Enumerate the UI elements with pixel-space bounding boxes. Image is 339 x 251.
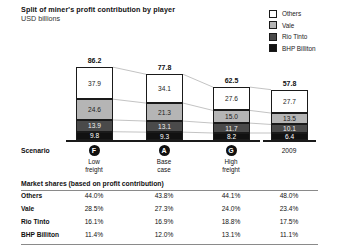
scenario-line1: High [208, 158, 254, 166]
bar-segment-rio-tinto: 13.1 [146, 121, 183, 132]
bar-segment-rio-tinto: 11.7 [213, 123, 250, 133]
bar-total-base-case: 77.8 [146, 64, 183, 71]
axis-baseline-2009 [263, 140, 316, 142]
bar-segment-rio-tinto: 13.9 [76, 120, 113, 132]
legend-label-others: Others [282, 10, 301, 17]
scenario-line1: Low [71, 158, 117, 166]
cell-value: 48.0% [266, 192, 312, 199]
row-label-rio-tinto: Rio Tinto [21, 218, 49, 225]
cell-value: 24.0% [208, 205, 254, 212]
table-row: Others 44.0% 43.8% 44.1% 48.0% [0, 192, 339, 204]
scenario-column-low-freight: F Low freight [71, 145, 117, 173]
bar-segment-vale: 13.5 [271, 113, 308, 124]
scenario-row-label: Scenario [21, 147, 50, 154]
row-label-vale: Vale [21, 205, 34, 212]
cell-value: 12.0% [141, 231, 187, 238]
bar-segment-vale: 21.3 [146, 103, 183, 121]
row-label-bhp-billiton: BHP Billiton [21, 231, 59, 238]
scenario-line2: freight [208, 166, 254, 174]
bar-low-freight: 86.2 37.9 24.6 13.9 9.8 [76, 28, 113, 140]
cell-value: 13.1% [208, 231, 254, 238]
scenario-column-high-freight: G High freight [208, 145, 254, 173]
table-row: Vale 28.5% 27.3% 24.0% 23.4% [0, 205, 339, 217]
bar-segment-others: 37.9 [76, 67, 113, 99]
bar-segment-bhp-billiton: 9.8 [76, 132, 113, 140]
cell-value: 18.8% [208, 218, 254, 225]
cell-value: 16.9% [141, 218, 187, 225]
bar-total-2009: 57.8 [271, 80, 308, 87]
table-rule-bottom [21, 244, 318, 245]
bar-segment-others: 34.1 [146, 74, 183, 103]
page-title: Split of miner's profit contribution by … [21, 5, 175, 14]
bar-segment-bhp-billiton: 9.3 [146, 132, 183, 140]
bar-total-low-freight: 86.2 [76, 57, 113, 64]
chart-page: Split of miner's profit contribution by … [0, 0, 339, 251]
cell-value: 23.4% [266, 205, 312, 212]
page-subtitle: USD billions [21, 14, 60, 23]
scenario-line2: case [141, 166, 187, 174]
legend-item-others: Others [269, 8, 331, 20]
axis-baseline-scenarios [66, 140, 260, 142]
table-row: Rio Tinto 16.1% 16.9% 18.8% 17.5% [0, 218, 339, 230]
bar-segment-vale: 24.6 [76, 99, 113, 120]
bar-segment-vale: 15.0 [213, 110, 250, 123]
bar-segment-bhp-billiton: 8.2 [213, 133, 250, 140]
scenario-line1: Base [141, 158, 187, 166]
bar-segment-others: 27.7 [271, 90, 308, 113]
bar-segment-others: 27.6 [213, 87, 250, 110]
bar-segment-rio-tinto: 10.1 [271, 124, 308, 133]
row-label-others: Others [21, 192, 42, 199]
cell-value: 44.1% [208, 192, 254, 199]
cell-value: 28.5% [71, 205, 117, 212]
cell-value: 16.1% [71, 218, 117, 225]
cell-value: 27.3% [141, 205, 187, 212]
bar-segment-bhp-billiton: 6.4 [271, 133, 308, 140]
table-row: BHP Billiton 11.4% 12.0% 13.1% 11.1% [0, 231, 339, 243]
legend-swatch-others [269, 10, 277, 18]
table-rule-top [21, 190, 318, 191]
cell-value: 11.1% [266, 231, 312, 238]
cell-value: 43.8% [141, 192, 187, 199]
scenario-column-2009: 2009 [266, 147, 312, 154]
stacked-bar-chart: 86.2 37.9 24.6 13.9 9.8 77.8 34.1 21.3 1… [0, 28, 339, 143]
scenario-badge-a: A [159, 145, 170, 156]
scenario-badge-g: G [226, 145, 237, 156]
cell-value: 17.5% [266, 218, 312, 225]
scenario-line2: freight [71, 166, 117, 174]
bar-total-high-freight: 62.5 [213, 77, 250, 84]
bar-base-case: 77.8 34.1 21.3 13.1 9.3 [146, 28, 183, 140]
bar-2009: 57.8 27.7 13.5 10.1 6.4 [271, 28, 308, 140]
scenario-badge-f: F [89, 145, 100, 156]
cell-value: 44.0% [71, 192, 117, 199]
bar-high-freight: 62.5 27.6 15.0 11.7 8.2 [213, 28, 250, 140]
market-shares-title: Market shares (based on profit contribut… [21, 180, 164, 187]
cell-value: 11.4% [71, 231, 117, 238]
scenario-column-base-case: A Base case [141, 145, 187, 173]
